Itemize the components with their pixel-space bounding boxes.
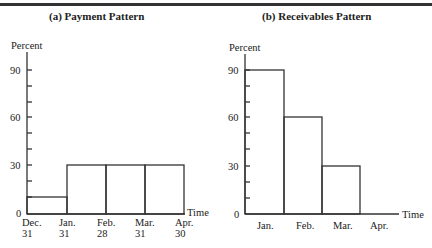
chart-plot-area — [0, 0, 432, 248]
chart-a-bar-1 — [27, 197, 67, 214]
chart-b-bar-mar — [322, 166, 360, 214]
chart-a-bar-2 — [67, 165, 106, 214]
chart-b-bar-jan — [245, 70, 284, 214]
chart-a-bar-3 — [106, 165, 145, 214]
chart-a-bar-4 — [145, 165, 184, 214]
chart-b-bar-feb — [284, 117, 322, 214]
